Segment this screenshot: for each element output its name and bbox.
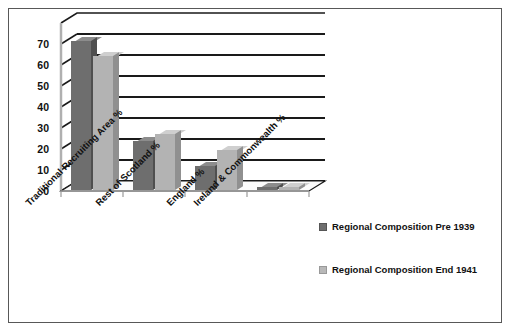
bar-ireland-commonwealth-pre1939: [257, 187, 277, 190]
y-tick-20: 20: [23, 144, 49, 154]
legend-label-end1941: Regional Composition End 1941: [332, 264, 477, 275]
legend-label-pre1939: Regional Composition Pre 1939: [332, 221, 475, 232]
bar-front-face: [257, 187, 277, 190]
chart-frame: 70 60 50 40 30 20 10 0: [8, 8, 502, 323]
legend-swatch-icon: [319, 266, 327, 274]
y-tick-70: 70: [23, 39, 49, 49]
chart-legend: Regional Composition Pre 1939 Regional C…: [319, 221, 499, 307]
bar-front-face: [71, 41, 91, 190]
bar-ireland-commonwealth-end1941: [279, 187, 299, 190]
y-axis-tick-labels: 70 60 50 40 30 20 10 0: [15, 23, 49, 190]
bar-side-face: [175, 131, 181, 190]
y-tick-50: 50: [23, 81, 49, 91]
legend-item-end1941: Regional Composition End 1941: [319, 264, 499, 275]
plot-area: [61, 23, 333, 190]
y-tick-60: 60: [23, 60, 49, 70]
legend-swatch-icon: [319, 223, 327, 231]
bar-traditional-pre1939: [71, 41, 91, 190]
y-tick-40: 40: [23, 102, 49, 112]
bar-front-face: [279, 187, 299, 190]
y-tick-10: 10: [23, 165, 49, 175]
y-tick-30: 30: [23, 123, 49, 133]
legend-item-pre1939: Regional Composition Pre 1939: [319, 221, 499, 232]
